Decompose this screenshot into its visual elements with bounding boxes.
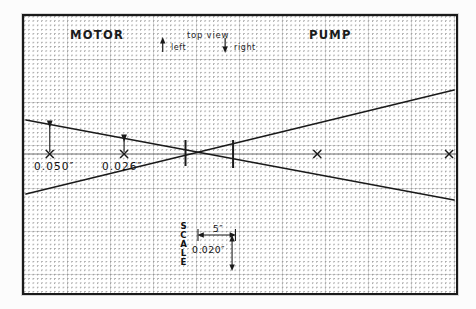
dimension-label-2: 0.026″ bbox=[102, 160, 143, 172]
right-direction-label: right bbox=[234, 43, 256, 52]
diagram-page: MOTOR top view left right PUMP 0.050″ 0.… bbox=[0, 0, 476, 309]
scale-horizontal-label: 5″ bbox=[213, 224, 223, 234]
diagram-drawing bbox=[24, 16, 456, 293]
pump-label: PUMP bbox=[309, 28, 352, 42]
scale-vertical-arrow-icon bbox=[229, 235, 234, 271]
ascending-shaft-line bbox=[26, 90, 454, 194]
diagram-plate: MOTOR top view left right PUMP 0.050″ 0.… bbox=[22, 14, 458, 295]
motor-label: MOTOR bbox=[70, 28, 124, 42]
scale-letter-e: E bbox=[179, 258, 188, 266]
scale-vertical-label: 0.020″ bbox=[192, 244, 225, 255]
descending-shaft-line bbox=[26, 120, 454, 200]
left-direction-arrow-icon bbox=[160, 37, 165, 52]
top-view-label: top view bbox=[187, 30, 229, 40]
right-direction-arrow-icon bbox=[222, 38, 227, 53]
dimension-label-1: 0.050″ bbox=[34, 160, 75, 172]
left-direction-label: left bbox=[171, 43, 186, 52]
